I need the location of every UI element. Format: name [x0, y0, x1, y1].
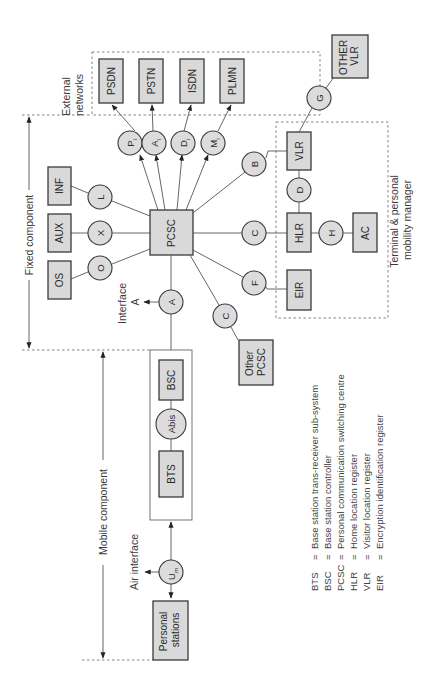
isdn-node: ISDN	[180, 59, 204, 103]
pcsc-node: PCSC	[150, 210, 193, 255]
svg-text:O: O	[95, 264, 106, 271]
svg-text:B: B	[249, 161, 260, 167]
svg-text:VLR: VLR	[294, 141, 305, 160]
svg-text:ISDN: ISDN	[187, 69, 198, 93]
interface-l: L	[88, 185, 112, 209]
hlr-node: HLR	[287, 213, 311, 252]
svg-text:=: =	[309, 554, 320, 560]
svg-text:Base station trans-receiver su: Base station trans-receiver sub-system	[309, 385, 320, 549]
interface-h: H	[319, 221, 343, 245]
svg-text:HLR: HLR	[348, 572, 359, 591]
personal-stations-node: Personal stations	[153, 601, 188, 660]
interface-g: G	[307, 86, 331, 110]
svg-text:Encryption identification regi: Encryption identification register	[374, 414, 385, 549]
legend: BTS = Base station trans-receiver sub-sy…	[309, 374, 385, 591]
svg-text:BSC: BSC	[166, 370, 177, 391]
interface-pi: Pi	[118, 131, 142, 155]
svg-text:OS: OS	[54, 272, 65, 287]
legend-row: VLR = Visitor location register	[361, 453, 372, 591]
svg-text:C: C	[249, 229, 260, 236]
svg-text:=: =	[322, 554, 333, 560]
svg-text:Home location register: Home location register	[348, 454, 359, 549]
svg-text:EIR: EIR	[374, 575, 385, 591]
bsc-node: BSC	[159, 360, 183, 400]
svg-text:H: H	[326, 229, 337, 236]
svg-text:PSDN: PSDN	[106, 67, 117, 95]
vlr-node: VLR	[287, 132, 311, 170]
interface-ai: Ai	[142, 131, 166, 155]
svg-text:BTS: BTS	[309, 573, 320, 591]
interface-mi: Mi	[201, 131, 225, 155]
svg-text:PCSC: PCSC	[335, 564, 346, 591]
interface-c-other: C	[213, 304, 237, 328]
eir-node: EIR	[287, 270, 311, 310]
other-vlr-node: OTHER VLR	[332, 35, 368, 78]
aux-node: AUX	[48, 214, 71, 252]
interface-x: X	[88, 221, 112, 245]
ac-node: AC	[353, 213, 377, 252]
interface-b: B	[242, 152, 266, 176]
air-interface-label: Air interface	[128, 534, 140, 590]
external-networks-label: External networks	[60, 74, 85, 116]
svg-text:=: =	[348, 554, 359, 560]
psdn-node: PSDN	[99, 59, 123, 103]
os-node: OS	[48, 261, 71, 299]
svg-text:Personal stations: Personal stations	[158, 609, 181, 651]
interface-o: O	[88, 256, 112, 280]
svg-text:EIR: EIR	[294, 282, 305, 299]
plmn-node: PLMN	[220, 59, 244, 103]
external-networks-region	[92, 52, 320, 115]
fixed-component-label: Fixed component	[23, 195, 35, 276]
svg-text:PSTN: PSTN	[146, 68, 157, 95]
other-pcsc-node: Other PCSC	[239, 340, 273, 385]
svg-text:A: A	[166, 298, 177, 305]
legend-row: PCSC = Personal communication switching …	[335, 374, 346, 591]
svg-text:Visitor location register: Visitor location register	[361, 453, 372, 549]
svg-text:INF: INF	[54, 178, 65, 194]
svg-text:AC: AC	[360, 226, 371, 240]
svg-text:Personal communication switchi: Personal communication switching centre	[335, 374, 346, 549]
svg-text:PLMN: PLMN	[227, 67, 238, 95]
svg-text:C: C	[220, 312, 231, 319]
svg-text:Base station controller: Base station controller	[322, 455, 333, 549]
svg-text:BSC: BSC	[322, 571, 333, 591]
svg-text:VLR: VLR	[361, 572, 372, 591]
svg-text:=: =	[361, 554, 372, 560]
legend-row: EIR = Encryption identification register	[374, 414, 385, 591]
interface-d: D	[287, 178, 311, 202]
svg-text:Other PCSC: Other PCSC	[244, 348, 267, 376]
mobile-component-label: Mobile component	[97, 469, 109, 555]
legend-row: BTS = Base station trans-receiver sub-sy…	[309, 385, 320, 591]
interface-c-hlr: C	[242, 221, 266, 245]
svg-text:D: D	[294, 186, 305, 193]
terminal-mobility-manager-label: Terminal & personal mobility manager	[388, 172, 413, 268]
interface-di: Di	[171, 131, 195, 155]
interface-um: Um	[159, 560, 183, 584]
interface-a-label: Interface A	[116, 280, 141, 324]
svg-text:L: L	[95, 194, 106, 199]
svg-text:=: =	[374, 554, 385, 560]
interface-a: A	[159, 290, 183, 314]
interface-abis: Abis	[156, 409, 186, 439]
svg-text:PCSC: PCSC	[166, 219, 177, 247]
network-architecture-diagram: External networks Fixed component Mobile…	[0, 0, 435, 683]
svg-text:Abis: Abis	[166, 415, 177, 434]
svg-text:=: =	[335, 554, 346, 560]
svg-text:AUX: AUX	[54, 222, 65, 243]
svg-text:G: G	[314, 94, 325, 101]
bts-node: BTS	[159, 451, 183, 497]
svg-text:BTS: BTS	[166, 464, 177, 484]
inf-node: INF	[48, 167, 71, 205]
interface-f: F	[242, 271, 266, 295]
pstn-node: PSTN	[139, 59, 163, 103]
legend-row: HLR = Home location register	[348, 454, 359, 591]
legend-row: BSC = Base station controller	[322, 455, 333, 591]
svg-text:HLR: HLR	[294, 223, 305, 243]
svg-text:X: X	[95, 229, 106, 236]
svg-text:F: F	[249, 280, 260, 286]
